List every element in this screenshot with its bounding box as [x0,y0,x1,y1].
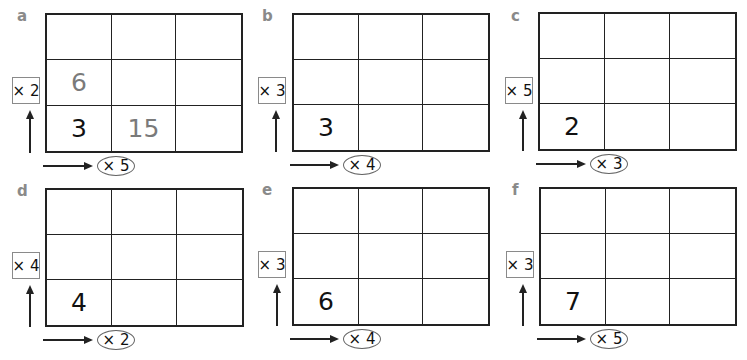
arrow-right-icon [84,336,93,344]
column-multiplier-oval: × 5 [97,156,135,176]
column-multiplier-oval: × 4 [343,155,381,175]
blank-answer-cell[interactable] [177,235,242,280]
panel-label: b [262,7,273,25]
blank-answer-cell[interactable] [605,104,670,149]
blank-answer-cell[interactable] [112,60,177,105]
arrow-right-shaft [537,338,578,340]
blank-answer-cell[interactable] [177,280,242,325]
multiplication-grid: 4 [45,188,244,327]
blank-answer-cell[interactable] [670,279,735,324]
blank-answer-cell[interactable] [541,189,606,234]
column-multiplier-oval: × 5 [590,329,628,349]
blank-answer-cell[interactable] [294,234,359,279]
column-multiplier-oval: × 4 [343,329,381,349]
arrow-up-shaft [29,293,31,327]
arrow-up-shaft [275,118,277,152]
arrow-right-icon [330,161,339,169]
panel-label: f [512,181,519,199]
given-number-cell: 3 [294,105,359,150]
blank-answer-cell[interactable] [294,15,359,60]
hint-number-cell: 15 [112,106,177,151]
blank-answer-cell[interactable] [423,234,488,279]
blank-answer-cell[interactable] [112,235,177,280]
given-number-cell: 4 [47,280,112,325]
blank-answer-cell[interactable] [359,234,424,279]
blank-answer-cell[interactable] [606,234,671,279]
blank-answer-cell[interactable] [359,105,424,150]
row-multiplier-box: × 3 [258,251,286,278]
blank-answer-cell[interactable] [540,14,605,59]
blank-answer-cell[interactable] [605,59,670,104]
blank-answer-cell[interactable] [176,60,241,105]
given-number-cell: 7 [541,279,606,324]
blank-answer-cell[interactable] [47,190,112,235]
blank-answer-cell[interactable] [112,190,177,235]
arrow-up-shaft [29,118,31,153]
hint-number-cell: 6 [47,60,112,105]
blank-answer-cell[interactable] [670,189,735,234]
blank-answer-cell[interactable] [47,15,112,60]
row-multiplier-box: × 2 [12,77,40,104]
blank-answer-cell[interactable] [112,280,177,325]
panel-label: e [262,181,272,199]
blank-answer-cell[interactable] [47,235,112,280]
blank-answer-cell[interactable] [541,234,606,279]
blank-answer-cell[interactable] [540,59,605,104]
blank-answer-cell[interactable] [670,14,735,59]
column-multiplier-oval: × 3 [590,154,628,174]
blank-answer-cell[interactable] [670,59,735,104]
blank-answer-cell[interactable] [670,234,735,279]
blank-answer-cell[interactable] [423,105,488,150]
blank-answer-cell[interactable] [176,106,241,151]
blank-answer-cell[interactable] [359,60,424,105]
multiplication-grid: 6315 [45,13,243,153]
blank-answer-cell[interactable] [359,189,424,234]
arrow-right-shaft [536,163,578,165]
blank-answer-cell[interactable] [423,15,488,60]
row-multiplier-box: × 3 [506,251,534,278]
arrow-right-icon [577,335,586,343]
blank-answer-cell[interactable] [176,15,241,60]
blank-answer-cell[interactable] [112,15,177,60]
arrow-up-shaft [522,118,524,151]
arrow-right-shaft [290,164,331,166]
multiplication-grid: 2 [538,12,737,151]
blank-answer-cell[interactable] [177,190,242,235]
arrow-right-shaft [43,165,85,167]
row-multiplier-box: × 3 [258,77,286,104]
given-number-cell: 2 [540,104,605,149]
column-multiplier-oval: × 2 [97,330,135,350]
panel-label: d [17,182,28,200]
arrow-right-icon [577,160,586,168]
blank-answer-cell[interactable] [359,279,424,324]
blank-answer-cell[interactable] [294,60,359,105]
blank-answer-cell[interactable] [423,279,488,324]
panel-label: a [17,7,27,25]
arrow-right-shaft [290,338,331,340]
blank-answer-cell[interactable] [606,279,671,324]
row-multiplier-box: × 5 [505,77,533,104]
blank-answer-cell[interactable] [359,15,424,60]
arrow-right-icon [84,162,93,170]
row-multiplier-box: × 4 [12,252,40,279]
multiplication-grid: 7 [539,187,737,326]
multiplication-grid: 3 [292,13,490,152]
arrow-right-shaft [43,339,85,341]
arrow-up-shaft [522,292,524,326]
blank-answer-cell[interactable] [606,189,671,234]
blank-answer-cell[interactable] [294,189,359,234]
arrow-up-shaft [276,292,278,326]
blank-answer-cell[interactable] [670,104,735,149]
given-number-cell: 3 [47,106,112,151]
blank-answer-cell[interactable] [605,14,670,59]
blank-answer-cell[interactable] [423,60,488,105]
arrow-right-icon [330,335,339,343]
panel-label: c [511,7,520,25]
given-number-cell: 6 [294,279,359,324]
blank-answer-cell[interactable] [423,189,488,234]
multiplication-grid: 6 [292,187,490,326]
